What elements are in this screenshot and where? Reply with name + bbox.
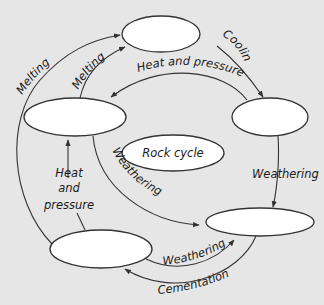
- label-melting-inner: Melting: [69, 49, 108, 91]
- label-heat-pressure-left-2: and: [58, 181, 80, 195]
- label-weathering-right: Weathering: [252, 167, 319, 181]
- node-bottom-left: [50, 230, 152, 268]
- label-cementation: Cementation: [157, 266, 231, 297]
- node-right: [232, 98, 308, 136]
- edge-heat-pressure-left-tail: [77, 213, 85, 230]
- node-top: [122, 16, 200, 52]
- center-label: Rock cycle: [142, 146, 203, 160]
- edge-heat-pressure-top: [111, 73, 247, 100]
- label-heat-pressure-left-1: Heat: [55, 166, 83, 180]
- label-heat-pressure-left-3: pressure: [43, 198, 94, 212]
- label-heat-pressure-top: Heat and pressure: [135, 54, 246, 80]
- node-bottom-right: [206, 208, 314, 236]
- rock-cycle-diagram: Rock cycle Melting Melting Cooling Heat …: [0, 0, 324, 305]
- node-left-upper: [24, 98, 126, 136]
- label-weathering-bottom: Weathering: [162, 236, 228, 268]
